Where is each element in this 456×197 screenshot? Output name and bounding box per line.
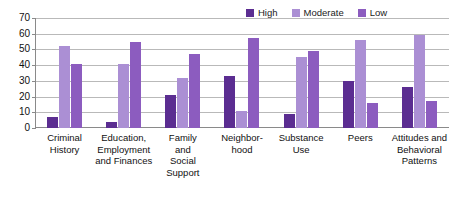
y-axis-tick-label: 70 [4, 13, 30, 23]
legend-item-low: Low [358, 8, 387, 18]
bar-high[interactable] [106, 122, 117, 128]
bar-moderate[interactable] [177, 78, 188, 128]
x-axis-label: Education,Employmentand Finances [94, 132, 153, 178]
y-axis-tick-label: 60 [4, 29, 30, 39]
y-axis-tick-label: 50 [4, 44, 30, 54]
bar-low[interactable] [308, 51, 319, 128]
bar-high[interactable] [165, 95, 176, 128]
bar-high[interactable] [224, 76, 235, 128]
bar-moderate[interactable] [118, 64, 129, 128]
x-axis-label: Neighbor-hood [212, 132, 271, 178]
bar-low[interactable] [367, 103, 378, 128]
bar-chart: High Moderate Low 706050403020100 Crimin… [0, 0, 456, 197]
legend-item-high: High [246, 8, 278, 18]
legend-swatch-low [358, 9, 366, 17]
bar-low[interactable] [71, 64, 82, 128]
y-axis-tick [32, 81, 36, 82]
bar-moderate[interactable] [236, 111, 247, 128]
x-axis-labels: CriminalHistoryEducation,Employmentand F… [35, 132, 449, 178]
bar-high[interactable] [47, 117, 58, 128]
bar-high[interactable] [284, 114, 295, 128]
legend-label-moderate: Moderate [304, 8, 344, 18]
bar-low[interactable] [248, 38, 259, 128]
plot-area: 706050403020100 CriminalHistoryEducation… [0, 0, 456, 197]
y-axis-tick-label: 10 [4, 107, 30, 117]
x-axis-label: SubstanceUse [272, 132, 331, 178]
y-axis-tick-label: 40 [4, 60, 30, 70]
bar-high[interactable] [402, 87, 413, 128]
bar-low[interactable] [189, 54, 200, 128]
y-axis-tick [32, 112, 36, 113]
bar-moderate[interactable] [414, 35, 425, 128]
y-axis-tick-label: 20 [4, 92, 30, 102]
bar-high[interactable] [343, 81, 354, 128]
gridline [36, 34, 449, 35]
y-axis-tick [32, 18, 36, 19]
legend-swatch-moderate [292, 9, 300, 17]
gridline [36, 49, 449, 50]
gridline [36, 18, 449, 19]
gridline [36, 81, 449, 82]
y-axis-tick [32, 97, 36, 98]
x-axis-label: CriminalHistory [35, 132, 94, 178]
bar-moderate[interactable] [296, 57, 307, 128]
y-axis-tick [32, 49, 36, 50]
y-axis-tick [32, 128, 36, 129]
bar-moderate[interactable] [59, 46, 70, 128]
legend-label-low: Low [370, 8, 387, 18]
legend-label-high: High [258, 8, 278, 18]
bar-low[interactable] [426, 101, 437, 128]
bar-moderate[interactable] [355, 40, 366, 128]
legend-item-moderate: Moderate [292, 8, 344, 18]
gridline [36, 65, 449, 66]
x-axis-label: FamilyandSocialSupport [153, 132, 212, 178]
y-axis: 706050403020100 [2, 0, 30, 197]
y-axis-tick-label: 30 [4, 76, 30, 86]
gridline [36, 97, 449, 98]
x-axis-label: Attitudes andBehavioralPatterns [390, 132, 449, 178]
chart-legend: High Moderate Low [246, 8, 387, 18]
y-axis-tick-label: 0 [4, 123, 30, 133]
legend-swatch-high [246, 9, 254, 17]
bar-low[interactable] [130, 42, 141, 128]
y-axis-tick [32, 65, 36, 66]
x-axis-label: Peers [331, 132, 390, 178]
y-axis-tick [32, 34, 36, 35]
